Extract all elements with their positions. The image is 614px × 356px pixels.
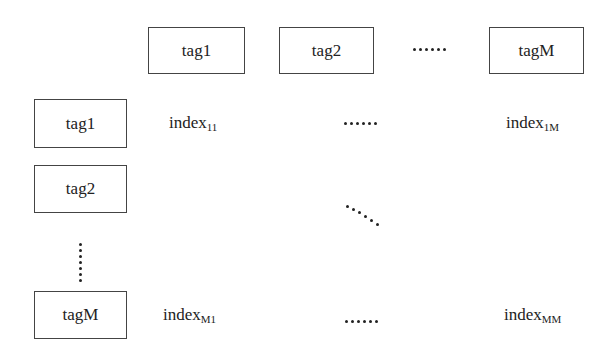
cell-base: index <box>169 113 207 132</box>
row-header-tag2: tag2 <box>34 165 127 213</box>
cell-subscript: 1M <box>544 121 559 133</box>
column-header-tag1: tag1 <box>148 27 245 74</box>
cell-subscript: 11 <box>207 121 218 133</box>
row-header-tagM: tagM <box>34 291 127 339</box>
column-header-label: tagM <box>519 41 555 61</box>
cell-subscript: MM <box>542 313 562 325</box>
column-header-label: tag2 <box>312 41 341 61</box>
column-header-tagM: tagM <box>489 27 584 74</box>
cell-subscript: M1 <box>201 313 216 325</box>
cell-index-M1: indexM1 <box>163 305 216 325</box>
column-header-tag2: tag2 <box>279 27 374 74</box>
cell-index-1M: index1M <box>506 113 559 133</box>
cell-index-11: index11 <box>169 113 217 133</box>
row-header-label: tagM <box>63 305 99 325</box>
cell-index-MM: indexMM <box>504 305 561 325</box>
cell-base: index <box>163 305 201 324</box>
cell-base: index <box>506 113 544 132</box>
row-header-label: tag2 <box>66 179 95 199</box>
cell-base: index <box>504 305 542 324</box>
row-header-label: tag1 <box>66 114 95 134</box>
row-header-tag1: tag1 <box>34 99 127 148</box>
column-header-label: tag1 <box>182 41 211 61</box>
